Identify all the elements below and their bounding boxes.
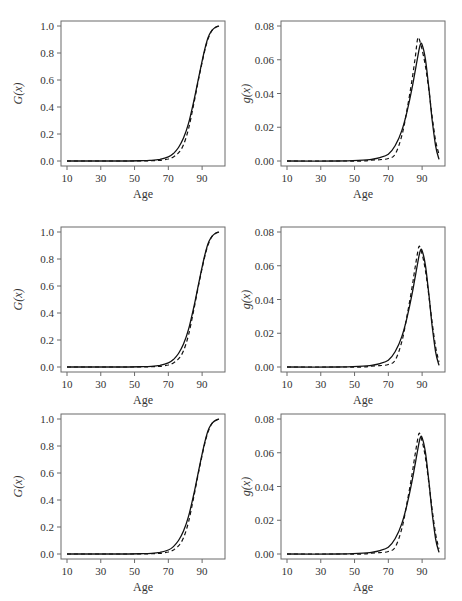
x-tick-label: 90 — [197, 378, 209, 390]
x-tick-label: 50 — [129, 172, 141, 184]
y-tick-label: 0.02 — [255, 327, 274, 339]
y-tick-label: 0.0 — [40, 155, 54, 167]
y-tick-label: 0.6 — [40, 74, 54, 86]
y-tick-label: 0.00 — [255, 155, 275, 167]
series-line-dashed — [287, 246, 439, 367]
plot-frame — [61, 414, 225, 559]
y-tick-label: 0.4 — [40, 101, 54, 113]
x-axis-label: Age — [133, 580, 153, 594]
y-axis-label: G(x) — [11, 289, 25, 311]
series-line-solid — [287, 436, 439, 554]
series-line-dashed — [287, 433, 439, 554]
x-tick-label: 10 — [62, 565, 74, 577]
y-tick-label: 0.00 — [255, 361, 275, 373]
plot-frame — [61, 227, 225, 372]
x-tick-label: 10 — [62, 172, 74, 184]
y-tick-label: 0.08 — [255, 226, 275, 238]
y-axis-label: G(x) — [11, 476, 25, 498]
y-tick-label: 1.0 — [40, 20, 54, 32]
y-tick-label: 0.8 — [40, 253, 54, 265]
x-tick-label: 30 — [315, 378, 327, 390]
x-tick-label: 50 — [349, 172, 361, 184]
chart-panel-row1-left: 10305070900.00.20.40.60.81.0AgeG(x) — [11, 20, 225, 201]
y-tick-label: 0.06 — [255, 260, 275, 272]
y-tick-label: 1.0 — [40, 413, 54, 425]
x-tick-label: 30 — [95, 378, 107, 390]
x-axis-label: Age — [353, 187, 373, 201]
chart-panel-row2-left: 10305070900.00.20.40.60.81.0AgeG(x) — [11, 226, 225, 407]
figure-grid: 10305070900.00.20.40.60.81.0AgeG(x)10305… — [0, 0, 462, 601]
x-tick-label: 90 — [417, 565, 429, 577]
x-tick-label: 70 — [163, 172, 175, 184]
series-line-solid — [287, 43, 439, 161]
x-axis-label: Age — [133, 393, 153, 407]
x-tick-label: 50 — [349, 565, 361, 577]
x-tick-label: 90 — [197, 172, 209, 184]
x-tick-label: 10 — [282, 565, 294, 577]
y-tick-label: 0.8 — [40, 47, 54, 59]
y-tick-label: 0.2 — [40, 334, 54, 346]
x-tick-label: 70 — [383, 565, 395, 577]
series-line-solid — [287, 249, 439, 367]
x-tick-label: 10 — [282, 378, 294, 390]
chart-panel-row1-right: 10305070900.000.020.040.060.08Ageg(x) — [239, 20, 445, 201]
y-tick-label: 0.8 — [40, 440, 54, 452]
y-axis-label: g(x) — [239, 290, 253, 309]
y-tick-label: 0.06 — [255, 447, 275, 459]
plot-frame — [281, 227, 445, 372]
plot-frame — [61, 21, 225, 166]
y-tick-label: 0.08 — [255, 413, 275, 425]
x-axis-label: Age — [353, 580, 373, 594]
y-tick-label: 0.0 — [40, 548, 54, 560]
x-tick-label: 70 — [383, 172, 395, 184]
y-tick-label: 0.04 — [255, 88, 275, 100]
y-tick-label: 0.0 — [40, 361, 54, 373]
x-tick-label: 90 — [417, 172, 429, 184]
series-line-dashed — [67, 419, 219, 554]
y-tick-label: 0.02 — [255, 121, 274, 133]
y-tick-label: 0.04 — [255, 481, 275, 493]
series-line-dashed — [287, 37, 439, 161]
x-tick-label: 50 — [129, 378, 141, 390]
x-tick-label: 10 — [62, 378, 74, 390]
y-tick-label: 0.04 — [255, 294, 275, 306]
series-line-dashed — [67, 26, 219, 161]
x-tick-label: 30 — [315, 172, 327, 184]
y-tick-label: 0.2 — [40, 521, 54, 533]
x-tick-label: 70 — [163, 565, 175, 577]
chart-panel-row3-right: 10305070900.000.020.040.060.08Ageg(x) — [239, 413, 445, 594]
y-axis-label: g(x) — [239, 477, 253, 496]
x-tick-label: 50 — [129, 565, 141, 577]
x-tick-label: 70 — [163, 378, 175, 390]
y-tick-label: 0.6 — [40, 280, 54, 292]
y-tick-label: 0.00 — [255, 548, 275, 560]
y-tick-label: 0.02 — [255, 514, 274, 526]
y-tick-label: 0.4 — [40, 494, 54, 506]
x-tick-label: 90 — [197, 565, 209, 577]
plot-frame — [281, 21, 445, 166]
series-line-dashed — [67, 232, 219, 367]
y-tick-label: 0.6 — [40, 467, 54, 479]
x-tick-label: 30 — [95, 172, 107, 184]
y-tick-label: 1.0 — [40, 226, 54, 238]
y-tick-label: 0.08 — [255, 20, 275, 32]
chart-panel-row3-left: 10305070900.00.20.40.60.81.0AgeG(x) — [11, 413, 225, 594]
x-tick-label: 90 — [417, 378, 429, 390]
y-tick-label: 0.2 — [40, 128, 54, 140]
x-tick-label: 10 — [282, 172, 294, 184]
plot-frame — [281, 414, 445, 559]
chart-panel-row2-right: 10305070900.000.020.040.060.08Ageg(x) — [239, 226, 445, 407]
y-tick-label: 0.06 — [255, 54, 275, 66]
x-tick-label: 30 — [315, 565, 327, 577]
x-axis-label: Age — [353, 393, 373, 407]
y-axis-label: G(x) — [11, 83, 25, 105]
y-axis-label: g(x) — [239, 84, 253, 103]
y-tick-label: 0.4 — [40, 307, 54, 319]
x-axis-label: Age — [133, 187, 153, 201]
x-tick-label: 30 — [95, 565, 107, 577]
x-tick-label: 70 — [383, 378, 395, 390]
x-tick-label: 50 — [349, 378, 361, 390]
